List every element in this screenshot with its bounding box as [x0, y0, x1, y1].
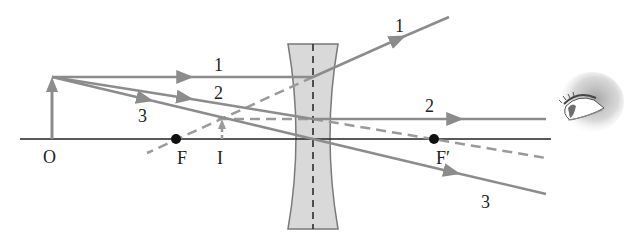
label-focus: F	[177, 148, 187, 168]
label-ray1-left: 1	[214, 55, 223, 75]
diverging-lens	[288, 44, 338, 229]
label-ray2-left: 2	[214, 83, 223, 103]
ray-1	[52, 17, 449, 77]
label-ray2-right: 2	[425, 96, 434, 116]
eye-icon	[559, 72, 624, 132]
focal-point-f-prime	[429, 134, 439, 144]
label-ray1-right: 1	[395, 16, 404, 36]
ray-diagram: O F I F′ 1 1 2 2 3 3	[0, 0, 626, 240]
object-arrow	[46, 77, 58, 139]
label-object: O	[43, 147, 56, 167]
label-ray3-right: 3	[481, 192, 490, 212]
focal-point-f	[171, 134, 181, 144]
label-image: I	[217, 148, 223, 168]
label-ray3-left: 3	[138, 106, 147, 126]
label-focus-prime: F′	[436, 148, 450, 168]
image-arrow	[218, 119, 226, 139]
